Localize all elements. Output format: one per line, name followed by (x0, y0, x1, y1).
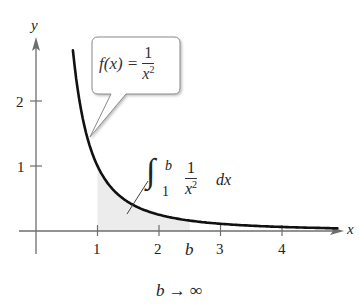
callout-numerator: 1 (142, 45, 154, 64)
y-tick-label-1: 1 (17, 160, 25, 175)
callout-lhs: f(x) = (99, 54, 138, 74)
integral-sign-icon: ∫ (146, 154, 155, 188)
x-tick-label-2: 2 (154, 242, 162, 257)
x-axis-label: x (347, 222, 354, 237)
callout-fraction: 1 x2 (142, 45, 154, 83)
integral-differential: dx (216, 171, 231, 189)
y-axis-label: y (31, 18, 38, 33)
chart-figure: y x 2 1 1 2 b 3 4 f(x) = 1 x2 ∫ b 1 1 x2… (0, 0, 359, 308)
x-tick-label-b: b (185, 241, 194, 258)
plot-area (0, 0, 359, 308)
integral-upper-limit: b (165, 158, 172, 174)
limit-label: b → ∞ (156, 282, 202, 299)
integrand-exponent: 2 (192, 179, 197, 190)
x-tick-label-4: 4 (278, 242, 286, 257)
callout-exponent: 2 (149, 64, 154, 75)
integrand-numerator: 1 (185, 160, 197, 179)
integral-lower-limit: 1 (162, 184, 169, 200)
integrand-denominator: x2 (185, 179, 197, 198)
shaded-area (98, 166, 190, 231)
x-tick-label-3: 3 (216, 242, 224, 257)
callout-formula: f(x) = 1 x2 (99, 45, 154, 83)
x-tick-label-1: 1 (93, 242, 101, 257)
integrand-fraction: 1 x2 (185, 160, 197, 198)
y-tick-label-2: 2 (16, 95, 24, 110)
callout-denominator: x2 (142, 64, 154, 83)
